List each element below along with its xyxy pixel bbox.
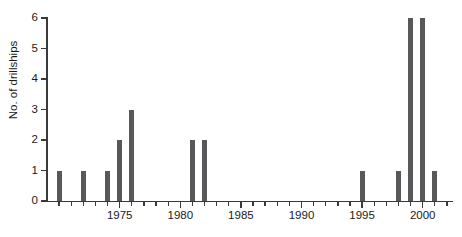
x-tick-label: 1980 bbox=[158, 209, 202, 221]
x-tick-major bbox=[180, 202, 181, 208]
y-tick-label: 3 bbox=[8, 104, 38, 116]
bar bbox=[57, 171, 62, 202]
x-tick-minor bbox=[386, 202, 387, 206]
x-tick-minor bbox=[446, 202, 447, 206]
x-tick-minor bbox=[204, 202, 205, 206]
y-tick bbox=[41, 109, 46, 111]
plot-area bbox=[47, 18, 453, 201]
x-tick-minor bbox=[349, 202, 350, 206]
x-tick-minor bbox=[143, 202, 144, 206]
y-tick-label: 2 bbox=[8, 134, 38, 146]
y-tick-label: 5 bbox=[8, 43, 38, 55]
x-tick-minor bbox=[58, 202, 59, 206]
x-tick-minor bbox=[168, 202, 169, 206]
x-tick-minor bbox=[374, 202, 375, 206]
bar bbox=[360, 171, 365, 202]
x-tick-label: 2000 bbox=[401, 209, 445, 221]
x-tick-minor bbox=[264, 202, 265, 206]
x-tick-minor bbox=[337, 202, 338, 206]
x-tick-minor bbox=[83, 202, 84, 206]
bar bbox=[408, 18, 413, 201]
bar bbox=[202, 140, 207, 201]
x-tick-major bbox=[301, 202, 302, 208]
x-tick-major bbox=[119, 202, 120, 208]
bar bbox=[81, 171, 86, 202]
bar bbox=[420, 18, 425, 201]
bar bbox=[105, 171, 110, 202]
y-tick bbox=[41, 139, 46, 141]
x-tick-major bbox=[240, 202, 241, 208]
y-tick bbox=[41, 200, 46, 202]
x-tick-minor bbox=[107, 202, 108, 206]
x-tick-minor bbox=[410, 202, 411, 206]
y-tick bbox=[41, 78, 46, 80]
x-tick-minor bbox=[252, 202, 253, 206]
y-tick-label: 4 bbox=[8, 73, 38, 85]
y-tick-label: 0 bbox=[8, 195, 38, 207]
x-tick-minor bbox=[289, 202, 290, 206]
bar bbox=[190, 140, 195, 201]
x-tick-label: 1990 bbox=[280, 209, 324, 221]
x-tick-major bbox=[361, 202, 362, 208]
y-tick-label: 1 bbox=[8, 165, 38, 177]
bar bbox=[117, 140, 122, 201]
x-tick-minor bbox=[155, 202, 156, 206]
x-tick-minor bbox=[277, 202, 278, 206]
x-tick-minor bbox=[71, 202, 72, 206]
x-tick-minor bbox=[325, 202, 326, 206]
y-axis-title: No. of drillships bbox=[7, 0, 19, 175]
y-tick bbox=[41, 170, 46, 172]
bar bbox=[396, 171, 401, 202]
x-tick-minor bbox=[192, 202, 193, 206]
chart-figure: No. of drillships 0123456 19751980198519… bbox=[0, 0, 462, 237]
x-tick-minor bbox=[95, 202, 96, 206]
x-tick-minor bbox=[131, 202, 132, 206]
x-tick-minor bbox=[398, 202, 399, 206]
x-tick-minor bbox=[216, 202, 217, 206]
x-tick-label: 1985 bbox=[219, 209, 263, 221]
y-tick bbox=[41, 17, 46, 19]
x-tick-minor bbox=[313, 202, 314, 206]
x-tick-label: 1995 bbox=[340, 209, 384, 221]
x-tick-major bbox=[422, 202, 423, 208]
bar bbox=[432, 171, 437, 202]
x-tick-label: 1975 bbox=[98, 209, 142, 221]
bar bbox=[129, 110, 134, 202]
y-tick bbox=[41, 48, 46, 50]
x-tick-minor bbox=[228, 202, 229, 206]
x-tick-minor bbox=[434, 202, 435, 206]
y-tick-label: 6 bbox=[8, 12, 38, 24]
